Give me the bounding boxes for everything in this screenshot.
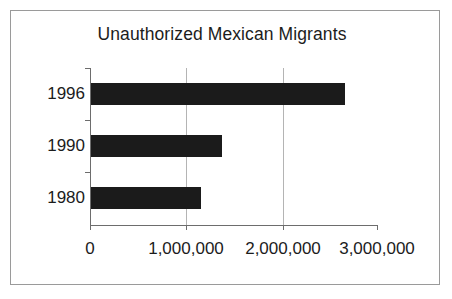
category-axis-labels: 1996 1990 1980 xyxy=(17,68,85,226)
xtick-0 xyxy=(90,225,91,230)
category-label-1980: 1980 xyxy=(23,188,85,208)
plot-area xyxy=(90,68,378,226)
bar-1980 xyxy=(91,187,201,209)
value-axis-labels: 0 1,000,000 2,000,000 3,000,000 xyxy=(11,238,433,262)
bar-1996 xyxy=(91,83,345,105)
xtick-1000000 xyxy=(186,225,187,230)
ytick-top xyxy=(85,68,91,69)
xtick-2000000 xyxy=(283,225,284,230)
xtick-3000000 xyxy=(377,225,378,230)
xtick-label-1000000: 1,000,000 xyxy=(148,238,224,260)
xtick-label-3000000: 3,000,000 xyxy=(339,238,415,260)
bar-1990 xyxy=(91,135,222,157)
chart-title: Unauthorized Mexican Migrants xyxy=(11,24,433,44)
xtick-label-0: 0 xyxy=(85,238,94,260)
chart-frame: Unauthorized Mexican Migrants 1996 1990 … xyxy=(10,10,440,285)
chart-screenshot: Unauthorized Mexican Migrants 1996 1990 … xyxy=(0,0,452,299)
category-label-1990: 1990 xyxy=(23,136,85,156)
ytick-1996-1990 xyxy=(85,120,91,121)
xtick-label-2000000: 2,000,000 xyxy=(245,238,321,260)
category-label-1996: 1996 xyxy=(23,84,85,104)
ytick-1990-1980 xyxy=(85,172,91,173)
value-axis-line xyxy=(90,225,378,226)
